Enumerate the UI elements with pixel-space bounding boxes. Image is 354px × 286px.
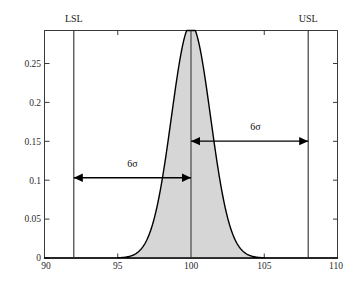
sigma-right-label: 6σ: [250, 121, 261, 132]
sigma-left-label: 6σ: [127, 158, 138, 169]
y-tick-label-5: 0.25: [24, 59, 41, 69]
x-tick-label-4: 110: [329, 261, 343, 271]
y-tick-label-2: 0.1: [29, 176, 41, 186]
x-tick-label-0: 90: [41, 261, 51, 271]
x-tick-label-2: 100: [184, 261, 199, 271]
lsl-label: LSL: [65, 13, 83, 24]
chart-canvas: 0 0.05 0.1 0.15 0.2 0.25 90 95 100 105 1…: [0, 0, 354, 286]
y-tick-label-3: 0.15: [24, 137, 41, 147]
usl-label: USL: [299, 13, 318, 24]
x-tick-label-1: 95: [113, 261, 123, 271]
y-tick-label-4: 0.2: [29, 98, 41, 108]
x-tick-label-3: 105: [257, 261, 272, 271]
y-tick-label-1: 0.05: [24, 214, 41, 224]
process-capability-chart: 0 0.05 0.1 0.15 0.2 0.25 90 95 100 105 1…: [0, 0, 354, 286]
